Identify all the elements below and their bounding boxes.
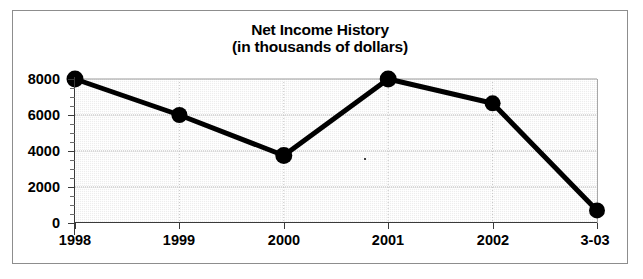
y-tick-minor xyxy=(70,196,75,197)
y-axis-label-2000: 2000 xyxy=(0,180,60,195)
y-tick-8000 xyxy=(68,79,75,80)
y-tick-6000 xyxy=(68,115,75,116)
x-axis-label-2002: 2002 xyxy=(453,233,533,248)
y-tick-minor xyxy=(70,205,75,206)
chart-frame: Net Income History (in thousands of doll… xyxy=(12,10,628,264)
x-axis-label-2001: 2001 xyxy=(348,233,428,248)
data-line xyxy=(75,79,597,210)
y-tick-minor xyxy=(70,88,75,89)
y-tick-minor xyxy=(70,133,75,134)
y-tick-minor xyxy=(70,169,75,170)
data-point-2000[interactable] xyxy=(275,147,292,164)
y-tick-minor xyxy=(70,160,75,161)
chart-title-block: Net Income History (in thousands of doll… xyxy=(13,21,627,56)
y-tick-minor xyxy=(70,214,75,215)
plot-area xyxy=(75,79,598,223)
y-axis-label-8000: 8000 xyxy=(0,72,60,87)
data-markers xyxy=(67,71,606,219)
y-tick-4000 xyxy=(68,151,75,152)
x-axis-label-2000: 2000 xyxy=(244,233,324,248)
data-point-2001[interactable] xyxy=(380,71,397,88)
y-axis-line xyxy=(74,77,75,235)
x-axis-label-1999: 1999 xyxy=(139,233,219,248)
x-tick-3-03 xyxy=(597,223,598,229)
y-tick-minor xyxy=(70,124,75,125)
x-tick-2001 xyxy=(388,223,389,229)
y-axis-label-6000: 6000 xyxy=(0,108,60,123)
y-axis-label-4000: 4000 xyxy=(0,144,60,159)
y-tick-minor xyxy=(70,97,75,98)
x-tick-2000 xyxy=(284,223,285,229)
data-point-1999[interactable] xyxy=(171,107,187,123)
chart-subtitle: (in thousands of dollars) xyxy=(13,38,627,55)
stray-speck xyxy=(364,158,366,160)
y-tick-0 xyxy=(68,223,75,224)
plot-svg xyxy=(75,79,597,223)
x-axis-label-1998: 1998 xyxy=(35,233,115,248)
y-tick-minor xyxy=(70,178,75,179)
y-tick-minor xyxy=(70,106,75,107)
x-tick-1998 xyxy=(75,223,76,229)
y-tick-minor xyxy=(70,142,75,143)
y-tick-2000 xyxy=(68,187,75,188)
x-axis-line xyxy=(74,222,597,223)
x-tick-2002 xyxy=(493,223,494,229)
page-title: Net Income History xyxy=(13,21,627,38)
x-tick-1999 xyxy=(179,223,180,229)
x-axis-label-3-03: 3-03 xyxy=(555,233,635,248)
data-point-3-03[interactable] xyxy=(589,202,605,218)
y-axis-label-0: 0 xyxy=(0,216,60,231)
data-point-2002[interactable] xyxy=(485,95,501,111)
